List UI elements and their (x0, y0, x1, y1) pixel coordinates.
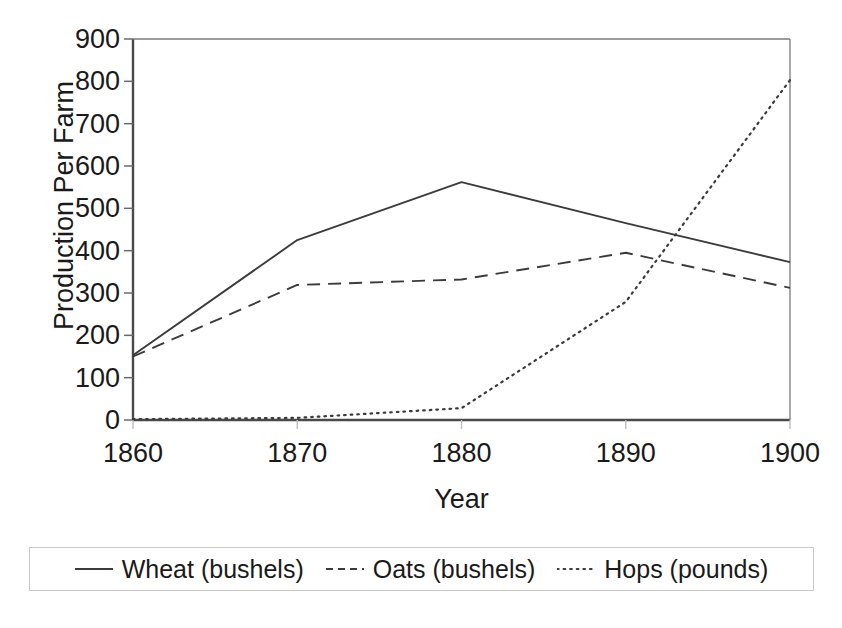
legend-swatch-dotted-icon (557, 561, 595, 577)
legend-label: Wheat (bushels) (122, 557, 304, 582)
x-tick-label: 1880 (402, 440, 522, 467)
legend-label: Oats (bushels) (373, 557, 536, 582)
y-tick-label: 400 (36, 238, 120, 265)
y-tick-label: 500 (36, 195, 120, 222)
legend-label: Hops (pounds) (604, 557, 768, 582)
y-tick-label: 900 (36, 26, 120, 53)
line-chart: Production Per Farm Year 010020030040050… (0, 0, 842, 628)
y-tick-label: 200 (36, 322, 120, 349)
tick-marks (124, 39, 790, 429)
x-tick-label: 1890 (566, 440, 686, 467)
legend-item[interactable]: Oats (bushels) (315, 557, 547, 582)
x-tick-label: 1870 (237, 440, 357, 467)
legend-item[interactable]: Wheat (bushels) (64, 557, 315, 582)
series-line (133, 80, 790, 419)
legend-swatch-dashed-icon (326, 561, 364, 577)
y-tick-label: 100 (36, 365, 120, 392)
plot-area (0, 0, 842, 628)
legend-item[interactable]: Hops (pounds) (546, 557, 779, 582)
y-tick-label: 700 (36, 111, 120, 138)
axis-lines (133, 39, 790, 420)
series-line (133, 253, 790, 357)
x-axis-title: Year (133, 484, 790, 515)
legend-swatch-solid-icon (75, 561, 113, 577)
y-tick-label: 800 (36, 68, 120, 95)
data-series (133, 80, 790, 419)
y-tick-label: 300 (36, 280, 120, 307)
y-tick-label: 0 (36, 407, 120, 434)
series-line (133, 182, 790, 355)
y-tick-label: 600 (36, 153, 120, 180)
x-tick-label: 1900 (730, 440, 842, 467)
chart-legend: Wheat (bushels)Oats (bushels)Hops (pound… (29, 547, 814, 591)
x-tick-label: 1860 (73, 440, 193, 467)
